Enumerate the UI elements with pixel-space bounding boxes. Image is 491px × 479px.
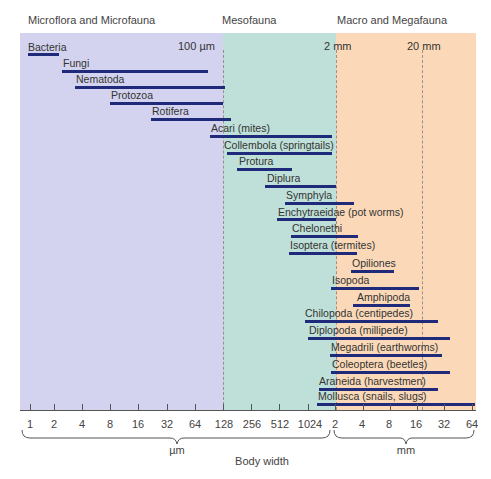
x-tick xyxy=(167,404,168,410)
x-tick xyxy=(30,404,31,410)
taxon-label: Mollusca (snails, slugs) xyxy=(318,390,427,402)
taxon-label: Enchytraeidae (pot worms) xyxy=(278,206,403,218)
taxon-label: Acari (mites) xyxy=(211,122,270,134)
x-tick xyxy=(82,404,83,410)
taxon-label: Chilopoda (centipedes) xyxy=(305,307,413,319)
taxon-label: Chelonethi xyxy=(292,222,342,234)
taxon-bar xyxy=(317,403,475,406)
taxon-bar xyxy=(210,135,332,138)
taxon-label: Coleoptera (beetles) xyxy=(332,358,427,370)
taxon-label: Diplopoda (millipede) xyxy=(309,324,408,336)
x-tick xyxy=(390,404,391,410)
x-tick xyxy=(54,404,55,410)
taxon-label: Diplura xyxy=(267,172,300,184)
zone-title-meso: Mesofauna xyxy=(222,14,276,26)
taxon-label: Protozoa xyxy=(111,89,153,101)
x-tick xyxy=(223,404,224,410)
x-tick xyxy=(251,404,252,410)
taxon-label: Megadrili (earthworms) xyxy=(331,341,438,353)
taxon-label: Rotifera xyxy=(152,105,189,117)
taxon-bar xyxy=(277,218,336,221)
taxon-label: Protura xyxy=(239,155,273,167)
taxon-bar xyxy=(237,168,292,171)
marker-100um: 100 µm xyxy=(178,40,215,52)
taxon-label: Araneida (harvestmen) xyxy=(319,375,426,387)
x-tick xyxy=(472,404,473,410)
taxon-bar xyxy=(331,371,450,374)
unit-label-um: µm xyxy=(169,444,185,456)
marker-2mm: 2 mm xyxy=(324,40,352,52)
taxon-bar xyxy=(285,202,354,205)
zone-title-macro: Macro and Megafauna xyxy=(337,14,447,26)
x-tick xyxy=(417,404,418,410)
taxon-label: Nematoda xyxy=(76,73,124,85)
taxon-bar xyxy=(291,235,358,238)
taxon-bar xyxy=(289,252,357,255)
x-tick xyxy=(444,404,445,410)
x-tick xyxy=(308,404,309,410)
x-axis-line xyxy=(20,410,476,411)
taxon-bar xyxy=(28,53,59,56)
zone-title-micro: Microflora and Microfauna xyxy=(28,14,155,26)
taxon-bar xyxy=(305,320,438,323)
dashed-line-100um xyxy=(223,50,224,410)
taxon-bar xyxy=(330,354,442,357)
taxon-label: Symphyla xyxy=(286,189,332,201)
marker-20mm: 20 mm xyxy=(407,40,441,52)
taxon-label: Opiliones xyxy=(352,257,396,269)
x-tick xyxy=(335,404,336,410)
taxon-bar xyxy=(265,185,336,188)
unit-braces xyxy=(0,428,491,452)
taxon-bar xyxy=(351,270,394,273)
taxon-label: Collembola (springtails) xyxy=(224,139,334,151)
taxon-label: Amphipoda xyxy=(357,291,410,303)
x-axis-title: Body width xyxy=(235,455,289,467)
taxon-bar xyxy=(151,118,231,121)
unit-label-mm: mm xyxy=(397,444,415,456)
x-tick xyxy=(279,404,280,410)
x-tick xyxy=(363,404,364,410)
taxon-label: Bacteria xyxy=(28,41,67,53)
taxon-bar xyxy=(331,287,419,290)
taxon-label: Isopoda xyxy=(332,274,369,286)
taxon-bar xyxy=(308,337,450,340)
x-tick xyxy=(138,404,139,410)
x-tick xyxy=(195,404,196,410)
taxon-label: Fungi xyxy=(63,57,89,69)
taxon-label: Isoptera (termites) xyxy=(290,239,375,251)
x-tick xyxy=(110,404,111,410)
